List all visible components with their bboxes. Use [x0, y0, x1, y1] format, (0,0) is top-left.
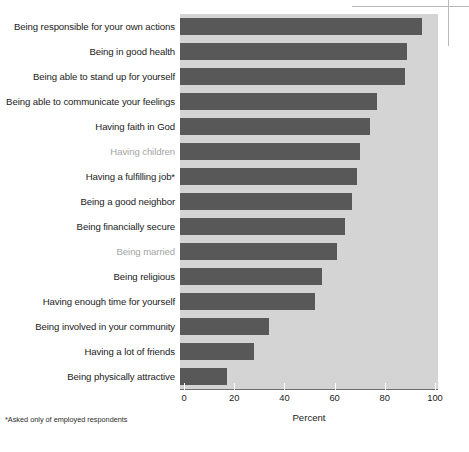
bar-chart-figure: Being responsible for your own actionsBe…	[0, 0, 469, 452]
bar	[180, 293, 315, 311]
bar	[180, 143, 360, 161]
bar-row	[180, 268, 438, 286]
x-axis-tick-label: 0	[181, 392, 186, 403]
x-axis-tick	[435, 383, 436, 390]
category-label: Being financially secure	[77, 221, 175, 232]
category-label: Being religious	[114, 271, 175, 282]
x-axis-tick-label: 20	[229, 392, 239, 403]
bar-row	[180, 318, 438, 336]
plot-panel	[180, 14, 438, 389]
x-axis-title: Percent	[180, 412, 438, 423]
bar	[180, 68, 405, 86]
x-axis-tick-label: 80	[380, 392, 390, 403]
x-axis-tick-label: 100	[427, 392, 443, 403]
category-label: Being able to communicate your feelings	[6, 96, 175, 107]
x-axis-tick-label: 60	[329, 392, 339, 403]
bar-row	[180, 93, 438, 111]
bar	[180, 268, 322, 286]
bar-row	[180, 343, 438, 361]
bar-row	[180, 193, 438, 211]
category-label: Being responsible for your own actions	[14, 21, 175, 32]
bar-row	[180, 243, 438, 261]
bar-row	[180, 218, 438, 236]
bar	[180, 368, 227, 386]
x-axis-tick	[335, 383, 336, 390]
category-label: Being married	[117, 246, 175, 257]
bar	[180, 218, 345, 236]
bar-row	[180, 43, 438, 61]
bars-layer	[180, 14, 438, 389]
crop-mark-right-icon	[448, 0, 449, 46]
bar	[180, 118, 370, 136]
x-axis-tick	[385, 383, 386, 390]
category-axis-labels: Being responsible for your own actionsBe…	[0, 14, 175, 389]
category-label: Being a good neighbor	[81, 196, 175, 207]
category-label: Having a fulfilling job*	[86, 171, 175, 182]
x-axis-tick	[184, 383, 185, 390]
bar	[180, 93, 377, 111]
chart-footnote: *Asked only of employed respondents	[5, 415, 128, 424]
bar	[180, 18, 422, 36]
x-axis-tick	[234, 383, 235, 390]
bar	[180, 168, 357, 186]
x-axis-tick-label: 40	[279, 392, 289, 403]
bar-row	[180, 118, 438, 136]
category-label: Being involved in your community	[35, 321, 175, 332]
bar-row	[180, 18, 438, 36]
category-label: Being physically attractive	[67, 371, 175, 382]
crop-mark-top-icon	[352, 6, 469, 7]
bar-row	[180, 68, 438, 86]
bar	[180, 243, 337, 261]
x-axis-line	[180, 389, 438, 390]
bar	[180, 318, 269, 336]
bar-row	[180, 143, 438, 161]
bar-row	[180, 168, 438, 186]
x-axis-tick	[284, 383, 285, 390]
bar	[180, 43, 407, 61]
bar-row	[180, 293, 438, 311]
category-label: Being able to stand up for yourself	[33, 71, 175, 82]
bar	[180, 193, 352, 211]
category-label: Having faith in God	[95, 121, 175, 132]
category-label: Having a lot of friends	[85, 346, 176, 357]
category-label: Having children	[110, 146, 175, 157]
bar	[180, 343, 254, 361]
bar-row	[180, 368, 438, 386]
category-label: Being in good health	[90, 46, 175, 57]
category-label: Having enough time for yourself	[43, 296, 175, 307]
